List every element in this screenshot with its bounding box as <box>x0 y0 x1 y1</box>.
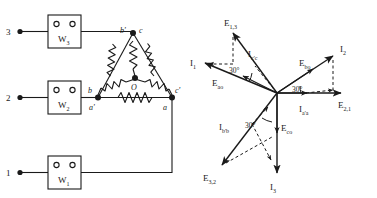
node-label-a-prime: a' <box>89 103 95 112</box>
phasor-label-i2: I2 <box>340 44 346 56</box>
wattmeter-w3-terminal-left <box>54 21 59 26</box>
circuit-diagram: 3 W3 2 <box>6 15 181 189</box>
node-center-O <box>132 75 138 81</box>
terminal-2-label: 2 <box>6 93 11 103</box>
delta-side-left <box>98 33 133 98</box>
figure-container: 3 W3 2 <box>0 0 377 198</box>
phasor-label-iaprimea: Ia'a <box>299 104 309 116</box>
wattmeter-w1-terminal-left <box>54 162 59 167</box>
terminal-1-label: 1 <box>6 168 11 178</box>
phasor-angle-label-lower: 30° <box>245 121 256 130</box>
resistor-right-branch <box>145 44 155 77</box>
terminal-2-group: 2 <box>6 93 48 103</box>
phasor-label-i1: I1 <box>190 58 196 70</box>
node-bottom-right <box>169 95 175 101</box>
phasor-label-e13: E1,3 <box>224 18 237 30</box>
phasor-vector-eao <box>243 76 277 93</box>
wire-center-vertical-to-O <box>133 69 135 76</box>
node-top <box>130 30 136 36</box>
phasor-label-eco: Eco <box>281 123 292 135</box>
phasor-angle-label-upper-left: 30° <box>229 66 240 75</box>
phasor-label-ibprimeb: Ib'b <box>219 122 229 134</box>
wattmeter-w1-terminal-right <box>70 162 75 167</box>
wattmeter-w2: W2 <box>48 81 81 114</box>
phasor-label-i3: I3 <box>270 182 276 194</box>
terminal-1-group: 1 <box>6 168 48 178</box>
resistor-center-right <box>145 80 169 92</box>
phasor-angle-label-right: 30° <box>292 85 303 94</box>
node-bottom-left <box>95 95 101 101</box>
phasor-angle-arc-lower <box>262 118 272 122</box>
wattmeter-w1-label: W1 <box>58 175 70 187</box>
resistor-left-branch <box>107 44 116 76</box>
phasor-label-ebo: Ebo <box>299 58 311 70</box>
phasor-label-iccprime: Ic'c <box>248 49 258 61</box>
terminal-3-group: 3 <box>6 27 48 37</box>
node-label-b-prime: b' <box>120 26 126 35</box>
phasor-label-e32: E3,2 <box>203 173 216 185</box>
node-label-c: c <box>139 26 143 35</box>
phasor-diagram: E1,3 I1 Ic'c Eao Ebo I2 Ia'a E2,1 Ib'b E… <box>190 18 351 194</box>
node-label-c-prime: c' <box>175 86 181 95</box>
figure-svg: 3 W3 2 <box>0 0 377 198</box>
wattmeter-w2-terminal-right <box>70 87 75 92</box>
wattmeter-w3-terminal-right <box>70 21 75 26</box>
node-label-a: a <box>163 103 167 112</box>
phasor-label-e21: E2,1 <box>338 100 351 112</box>
phasor-label-eao: Eao <box>212 78 223 90</box>
wattmeter-w3: W3 <box>48 15 81 48</box>
terminal-3-label: 3 <box>6 27 11 37</box>
wattmeter-w2-terminal-left <box>54 87 59 92</box>
delta-side-right <box>133 33 172 98</box>
node-label-b: b <box>88 86 92 95</box>
resistor-bottom-branch <box>118 93 152 103</box>
wattmeter-w3-label: W3 <box>58 34 70 46</box>
node-label-O: O <box>131 83 137 92</box>
resistor-center-vertical <box>130 41 138 69</box>
wattmeter-w1: W1 <box>48 156 81 189</box>
wattmeter-w2-label: W2 <box>58 100 70 112</box>
